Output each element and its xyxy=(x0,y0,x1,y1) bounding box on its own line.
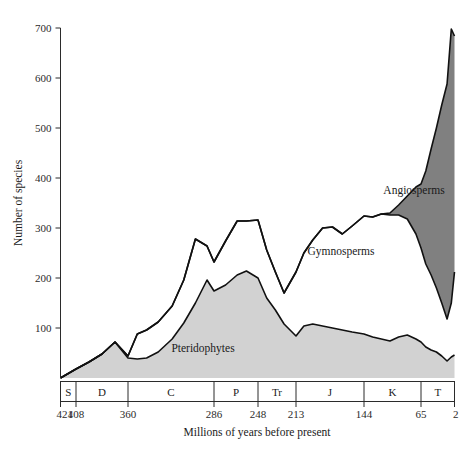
x-axis: 421408360286248213144652 Millions of yea… xyxy=(57,402,459,440)
y-tick-label: 500 xyxy=(35,122,52,134)
y-tick-label: 600 xyxy=(35,72,52,84)
period-label-t: T xyxy=(434,386,441,398)
y-tick-label: 300 xyxy=(35,222,52,234)
period-label-d: D xyxy=(98,386,106,398)
label-angiosperms: Angiosperms xyxy=(383,184,445,197)
label-gymnosperms: Gymnosperms xyxy=(307,245,375,258)
chart-figure: 100200300400500600700 Number of species … xyxy=(0,0,471,450)
y-tick-label: 200 xyxy=(35,272,52,284)
x-tick-label: 408 xyxy=(68,408,85,420)
x-axis-ticks: 421408360286248213144652 xyxy=(57,402,459,421)
x-axis-title: Millions of years before present xyxy=(184,426,332,439)
x-tick-label: 65 xyxy=(416,408,428,420)
period-label-s: S xyxy=(65,386,71,398)
period-label-tr: Tr xyxy=(272,386,282,398)
y-tick-label: 400 xyxy=(35,172,52,184)
x-tick-label: 2 xyxy=(453,408,459,420)
y-tick-label: 100 xyxy=(35,322,52,334)
y-axis-title: Number of species xyxy=(12,159,25,246)
period-dividers xyxy=(76,382,421,402)
y-axis: 100200300400500600700 Number of species xyxy=(12,22,61,378)
period-label-c: C xyxy=(167,386,174,398)
period-strip: SDCPTrJKT xyxy=(61,382,455,402)
period-label-k: K xyxy=(389,386,397,398)
species-diversity-area-chart: 100200300400500600700 Number of species … xyxy=(0,0,471,450)
label-pteridophytes: Pteridophytes xyxy=(171,342,235,355)
plot-areas xyxy=(61,29,455,378)
period-labels: SDCPTrJKT xyxy=(65,386,441,398)
y-axis-ticks: 100200300400500600700 xyxy=(35,22,61,334)
x-tick-label: 248 xyxy=(250,408,267,420)
x-tick-label: 286 xyxy=(206,408,223,420)
y-tick-label: 700 xyxy=(35,22,52,34)
x-tick-label: 144 xyxy=(356,408,373,420)
period-label-j: J xyxy=(328,386,333,398)
x-tick-label: 213 xyxy=(288,408,305,420)
x-tick-label: 360 xyxy=(120,408,137,420)
period-label-p: P xyxy=(233,386,239,398)
